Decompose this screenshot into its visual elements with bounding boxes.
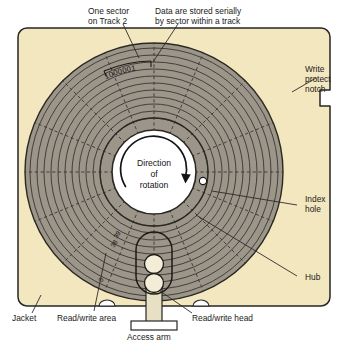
hub-label-line1: Direction <box>137 158 171 168</box>
access-arm-crossbar <box>131 321 177 330</box>
label-index-hole-line2: hole <box>305 204 321 214</box>
index-hole <box>199 177 206 184</box>
read-write-head-upper-pad <box>145 255 164 274</box>
floppy-disk-diagram: Direction of rotation 1000001 39 38 0 <box>0 0 348 344</box>
label-write-protect-line1: Write <box>305 64 325 74</box>
hub-label-line2: of <box>150 169 158 179</box>
diagram-canvas: Direction of rotation 1000001 39 38 0 <box>0 0 348 344</box>
label-serial-storage-line2: by sector within a track <box>155 16 241 26</box>
label-hub: Hub <box>305 272 321 282</box>
label-index-hole-line1: Index <box>305 194 326 204</box>
label-one-sector-line2: on Track 2 <box>88 16 127 26</box>
label-write-protect-line2: protect <box>305 74 331 84</box>
hub-label-line3: rotation <box>140 180 169 190</box>
label-access-arm: Access arm <box>127 332 171 342</box>
label-read-write-area: Read/write area <box>57 313 116 323</box>
label-one-sector-line1: One sector <box>88 6 129 16</box>
read-write-head-lower-pad <box>145 274 164 293</box>
label-read-write-head: Read/write head <box>192 313 253 323</box>
label-write-protect-line3: notch <box>305 84 326 94</box>
label-serial-storage-line1: Data are stored serially <box>155 6 242 16</box>
label-jacket: Jacket <box>12 313 37 323</box>
